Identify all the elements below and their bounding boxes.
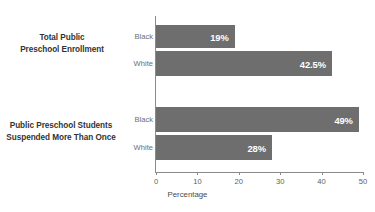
group-label-public-preschool-students-suspended: Public Preschool Students Suspended More…: [2, 120, 120, 143]
group-label-line: Total Public: [6, 32, 118, 44]
group-label-total-public-preschool-enrollment: Total Public Preschool Enrollment: [6, 32, 118, 55]
bar-chart: Total Public Preschool Enrollment Public…: [0, 0, 375, 212]
x-tick-mark: [156, 172, 157, 175]
bar-value-label: 49%: [334, 114, 352, 125]
x-tick-label: 30: [267, 177, 293, 186]
x-tick-label: 40: [309, 177, 335, 186]
x-tick-mark: [197, 172, 198, 175]
bar-total-enrollment-white: 42.5%: [156, 51, 332, 76]
bar-total-enrollment-black: 19%: [156, 25, 235, 48]
plot-area: 01020304050 19% 42.5% 49% 28%: [156, 16, 363, 172]
bar-suspended-white: 28%: [156, 135, 272, 160]
x-axis-title: Percentage: [0, 190, 375, 199]
x-tick-mark: [239, 172, 240, 175]
bar-suspended-black: 49%: [156, 107, 359, 132]
bar-value-label: 42.5%: [300, 58, 326, 69]
x-tick-mark: [322, 172, 323, 175]
series-label-white-group-1: White: [113, 143, 153, 152]
x-tick-label: 10: [184, 177, 210, 186]
x-tick-label: 50: [350, 177, 375, 186]
series-label-black-group-1: Black: [113, 115, 153, 124]
group-label-line: Preschool Enrollment: [6, 44, 118, 56]
x-axis-title-text: Percentage: [168, 190, 208, 199]
group-label-line: Public Preschool Students: [2, 120, 120, 132]
x-tick-mark: [280, 172, 281, 175]
series-label-white-group-0: White: [113, 59, 153, 68]
x-tick-label: 20: [226, 177, 252, 186]
x-axis-line: [155, 172, 363, 173]
bar-value-label: 28%: [247, 142, 265, 153]
x-tick-mark: [363, 172, 364, 175]
bar-value-label: 19%: [210, 31, 228, 42]
x-tick-label: 0: [143, 177, 169, 186]
group-label-line: Suspended More Than Once: [2, 132, 120, 144]
series-label-black-group-0: Black: [113, 32, 153, 41]
